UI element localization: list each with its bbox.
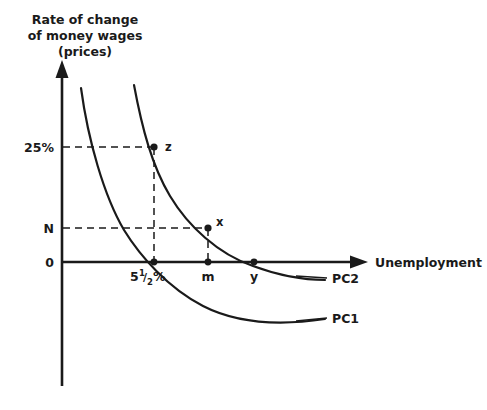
point-label-x: x bbox=[216, 215, 224, 229]
guide-lines-group bbox=[63, 147, 208, 261]
curve-label-pc2: PC2 bbox=[332, 271, 359, 286]
point-marker-x bbox=[204, 224, 211, 231]
y-axis-title-line-2: of money wages bbox=[28, 28, 143, 43]
x-tick-label-m: m bbox=[201, 269, 214, 284]
point-label-z: z bbox=[165, 140, 172, 154]
curve-label-pc1: PC1 bbox=[332, 311, 359, 326]
y-axis-title: Rate of change of money wages (prices) bbox=[28, 12, 143, 59]
x-axis-arrow-icon bbox=[350, 256, 368, 269]
x-tick-label-5-and-a-half-percent: 5 1 / 2 % bbox=[130, 268, 166, 287]
curve-labels-group: PC2 PC1 bbox=[332, 271, 359, 326]
y-axis-arrow-icon bbox=[56, 60, 69, 78]
curves-group bbox=[81, 85, 325, 323]
point-labels-group: z x bbox=[165, 140, 224, 229]
y-axis-title-line-1: Rate of change bbox=[32, 12, 138, 27]
point-marker-m bbox=[205, 259, 212, 266]
y-tick-label-n: N bbox=[44, 221, 54, 236]
y-tick-label-25-percent: 25% bbox=[24, 140, 54, 155]
x-axis-title: Unemployment bbox=[375, 255, 482, 270]
phillips-curve-figure: Rate of change of money wages (prices) U… bbox=[0, 0, 487, 410]
x-axis-tick-labels: 5 1 / 2 % m y bbox=[130, 268, 258, 287]
point-marker-z bbox=[150, 143, 157, 150]
curve-pc2 bbox=[134, 85, 325, 280]
y-axis-tick-labels: 25% N 0 bbox=[24, 140, 54, 270]
x-tick-label-y: y bbox=[250, 269, 258, 284]
y-axis-title-line-3: (prices) bbox=[58, 44, 112, 59]
x-tick-5half-percent: % bbox=[153, 269, 166, 284]
axes-group bbox=[56, 60, 369, 386]
point-markers-group bbox=[150, 143, 257, 265]
y-tick-label-zero: 0 bbox=[45, 255, 54, 270]
curve-leaders-group bbox=[296, 276, 327, 321]
point-marker-y bbox=[251, 259, 258, 266]
figure-canvas: Rate of change of money wages (prices) U… bbox=[0, 0, 487, 410]
point-marker-5half bbox=[151, 259, 158, 266]
curve-pc1 bbox=[81, 88, 325, 323]
x-tick-5half-whole: 5 bbox=[130, 269, 139, 284]
